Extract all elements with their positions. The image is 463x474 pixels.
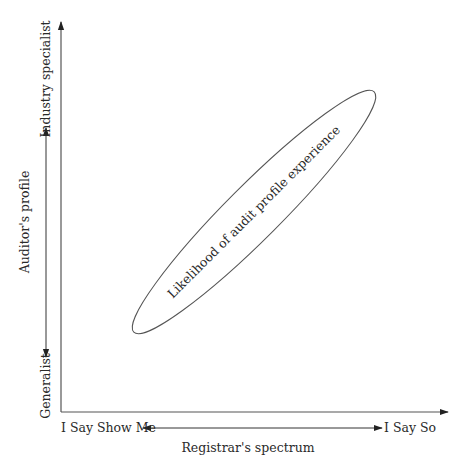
x-axis-left-label: I Say Show Me (61, 420, 156, 435)
x-axis-title: Registrar's spectrum (181, 440, 314, 455)
y-axis-title: Auditor's profile (17, 171, 32, 275)
diagram-canvas: Likelihood of audit profile experience I… (0, 0, 463, 474)
y-axis-top-label: Industry specialist (38, 20, 53, 137)
y-axis-bottom-label: Generalist (38, 353, 53, 419)
x-axis-right-label: I Say So (384, 420, 436, 435)
ellipse-label: Likelihood of audit profile experience (164, 122, 343, 301)
